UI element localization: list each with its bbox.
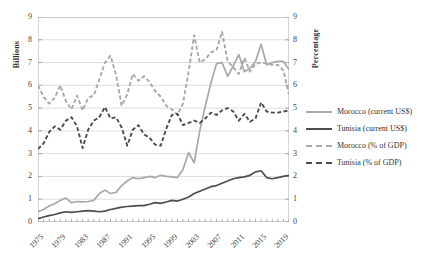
x-axis-tick-1995: 1995 bbox=[129, 232, 157, 260]
y-axis-left-tick-2: 2 bbox=[16, 171, 32, 180]
y-axis-right-tick-8: 8 bbox=[293, 35, 309, 44]
legend-label: Tunisia (% of GDP) bbox=[337, 158, 401, 167]
series-line-1 bbox=[38, 171, 289, 219]
legend-label: Morocco (current US$) bbox=[337, 107, 412, 116]
x-axis-tick-2007: 2007 bbox=[196, 232, 224, 260]
legend-item-1[interactable]: Tunisia (current US$) bbox=[306, 120, 424, 137]
series-line-3 bbox=[38, 102, 289, 149]
y-axis-right-tick-1: 1 bbox=[293, 194, 309, 203]
y-axis-left-tick-1: 1 bbox=[16, 194, 32, 203]
legend-label: Tunisia (current US$) bbox=[337, 124, 407, 133]
y-axis-right-tick-0: 0 bbox=[293, 217, 309, 226]
x-axis-tick-2019: 2019 bbox=[263, 232, 291, 260]
y-axis-left-title: Billions bbox=[12, 25, 21, 85]
y-axis-left-tick-4: 4 bbox=[16, 126, 32, 135]
chart-legend: Morocco (current US$)Tunisia (current US… bbox=[306, 103, 424, 171]
y-axis-right-tick-9: 9 bbox=[293, 12, 309, 21]
y-axis-left-tick-9: 9 bbox=[16, 12, 32, 21]
y-axis-right-tick-7: 7 bbox=[293, 58, 309, 67]
y-axis-left-tick-0: 0 bbox=[16, 217, 32, 226]
x-axis-tick-1991: 1991 bbox=[107, 232, 135, 260]
series-line-2 bbox=[38, 32, 289, 115]
x-axis-tick-1979: 1979 bbox=[40, 232, 68, 260]
y-axis-right-title: Percentage bbox=[311, 19, 320, 79]
y-axis-left-tick-7: 7 bbox=[16, 58, 32, 67]
y-axis-right-tick-6: 6 bbox=[293, 80, 309, 89]
chart-figure: Billions Percentage 0123456789 012345678… bbox=[0, 0, 424, 267]
plot-area bbox=[38, 17, 289, 222]
legend-item-0[interactable]: Morocco (current US$) bbox=[306, 103, 424, 120]
y-axis-left-tick-5: 5 bbox=[16, 103, 32, 112]
y-axis-left-tick-6: 6 bbox=[16, 80, 32, 89]
y-axis-left-tick-3: 3 bbox=[16, 149, 32, 158]
y-axis-right-tick-2: 2 bbox=[293, 171, 309, 180]
legend-label: Morocco (% of GDP) bbox=[337, 141, 407, 150]
y-axis-left-tick-8: 8 bbox=[16, 35, 32, 44]
legend-item-3[interactable]: Tunisia (% of GDP) bbox=[306, 154, 424, 171]
legend-item-2[interactable]: Morocco (% of GDP) bbox=[306, 137, 424, 154]
x-axis-tick-1983: 1983 bbox=[62, 232, 90, 260]
series-line-0 bbox=[38, 44, 289, 211]
plot-svg bbox=[38, 17, 289, 222]
